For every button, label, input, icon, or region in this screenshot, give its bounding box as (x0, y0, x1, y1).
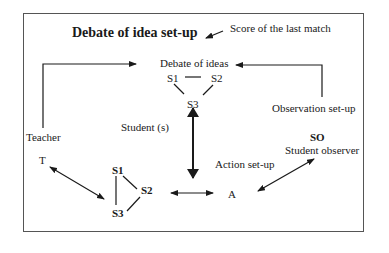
debate-node-s3: S3 (187, 98, 199, 110)
teacher-action-double-arrow (50, 167, 104, 199)
debate-edge-s1-s3 (174, 84, 184, 94)
action-edge-s2-s3 (127, 197, 140, 211)
teacher-label: Teacher (26, 131, 61, 143)
observation-to-debate-arrow (236, 65, 322, 97)
action-node-s3: S3 (112, 207, 124, 219)
debate-node-s2: S2 (211, 72, 223, 84)
action-node-s2: S2 (141, 184, 153, 196)
so-label: Student observer (285, 144, 359, 156)
so-node: SO (310, 131, 325, 143)
action-edge-s1-s2 (123, 176, 137, 189)
diagram-title: Debate of idea set-up (72, 27, 198, 39)
observation-label: Observation set-up (272, 102, 355, 114)
student-label: Student (s) (121, 121, 169, 133)
debate-node-s1: S1 (167, 72, 179, 84)
teacher-node: T (39, 154, 46, 166)
action-label: Action set-up (215, 158, 275, 170)
score-arrow (206, 31, 223, 38)
debate-label: Debate of ideas (160, 57, 228, 69)
teacher-to-debate-arrow (43, 64, 136, 128)
action-node-s1: S1 (112, 164, 124, 176)
debate-edge-s2-s3 (203, 85, 213, 95)
score-label: Score of the last match (230, 22, 331, 34)
action-node-a: A (228, 188, 236, 200)
